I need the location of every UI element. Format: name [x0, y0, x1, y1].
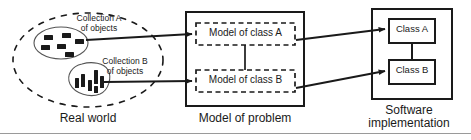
model-class-a-label: Model of class A	[196, 27, 295, 38]
software-implementation-caption: Software implementation	[347, 104, 471, 131]
software-implementation-caption-line2: implementation	[347, 117, 471, 130]
real-world-caption: Real world	[28, 112, 148, 125]
model-class-b-label: Model of class B	[196, 74, 295, 85]
collection-a-objects	[41, 33, 84, 57]
arrow-collection-b-to-model-b	[104, 81, 192, 82]
class-a-label: Class A	[389, 24, 435, 35]
collection-a-label: Collection A of objects	[62, 14, 136, 33]
model-of-problem-caption: Model of problem	[180, 112, 310, 125]
software-implementation-caption-line1: Software	[347, 104, 471, 117]
collection-b-label: Collection B of objects	[88, 57, 162, 76]
collection-b-label-line2: of objects	[88, 67, 162, 77]
arrow-collection-a-to-model-a	[86, 34, 192, 40]
class-b-label: Class B	[389, 65, 435, 76]
collection-a-label-line2: of objects	[62, 24, 136, 34]
diagram-canvas: Collection A of objects Collection B of …	[0, 0, 471, 140]
